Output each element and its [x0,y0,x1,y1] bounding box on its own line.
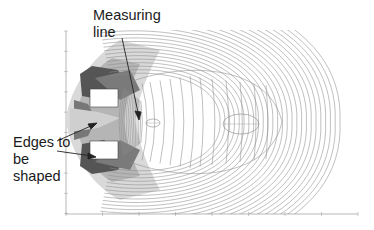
measuring-line-label: Measuringline [93,7,161,41]
measuring-label-line1: Measuring [93,7,161,23]
contour-plot [0,0,374,230]
edges-label-line2: be [13,151,29,167]
edges-label-line1: Edges to [13,134,70,150]
edges-label-line3: shaped [13,168,61,184]
edges-label: Edges tobeshaped [13,134,70,185]
measuring-label-line2: line [93,24,116,40]
electrode-top [90,89,118,107]
